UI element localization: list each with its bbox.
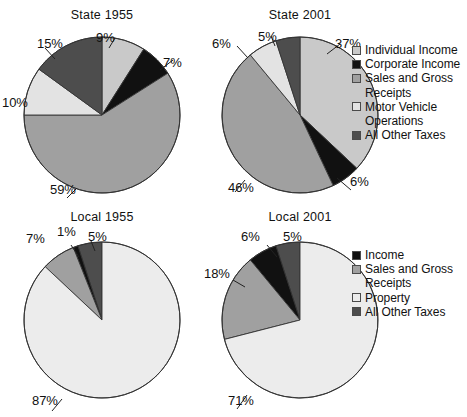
legend-item: All Other Taxes [352,305,464,319]
legend-swatch-icon [352,46,361,55]
legend-item-label: Corporate Income [365,57,460,71]
legend-swatch-icon [352,60,361,69]
local-legend: IncomeSales and Gross ReceiptsPropertyAl… [352,248,464,319]
legend-item-label: Sales and Gross Receipts [365,262,453,290]
legend-item-label: Individual Income [365,43,458,57]
legend-item: Income [352,248,464,262]
label-state-2001-sales: 46% [228,180,254,195]
legend-swatch-icon [352,307,361,316]
chart-title-local-2001: Local 2001 [220,210,380,224]
label-local-1955-sales: 7% [26,231,45,246]
label-state-1955-individual: 9% [96,30,115,45]
pie-local-1955 [17,235,187,405]
legend-item-label: All Other Taxes [365,128,445,142]
legend-swatch-icon [352,251,361,260]
legend-item-label: Income [365,248,404,262]
label-local-1955-property: 87% [32,393,58,408]
legend-item: Property [352,291,464,305]
label-local-2001-other: 5% [283,229,302,244]
label-local-2001-property: 71% [228,393,254,408]
label-state-2001-motor: 6% [212,36,231,51]
legend-swatch-icon [352,293,361,302]
label-state-1955-sales: 59% [50,182,76,197]
label-local-1955-income: 1% [57,224,76,239]
legend-item: All Other Taxes [352,128,464,142]
legend-swatch-icon [352,74,361,83]
pie-state-1955 [17,30,187,200]
legend-item-label: Property [365,291,410,305]
label-local-1955-other: 5% [88,229,107,244]
chart-title-local-1955: Local 1955 [22,210,182,224]
chart-title-state-1955: State 1955 [22,8,182,22]
legend-item: Individual Income [352,43,464,57]
label-state-1955-motor: 10% [2,95,28,110]
legend-item: Corporate Income [352,57,464,71]
label-state-1955-corporate: 7% [163,55,182,70]
legend-item: Motor Vehicle Operations [352,100,464,128]
label-local-2001-sales: 18% [204,266,230,281]
state-legend: Individual IncomeCorporate IncomeSales a… [352,43,464,142]
legend-swatch-icon [352,265,361,274]
legend-item-label: Motor Vehicle Operations [365,100,437,128]
legend-item: Sales and Gross Receipts [352,262,464,290]
label-state-1955-other: 15% [37,36,63,51]
legend-item-label: Sales and Gross Receipts [365,71,453,99]
figure-canvas: State 1955 9% 7% 59% 10% 15% State 2001 … [0,0,467,417]
label-state-2001-corporate: 6% [350,174,369,189]
legend-item: Sales and Gross Receipts [352,71,464,99]
legend-swatch-icon [352,102,361,111]
chart-title-state-2001: State 2001 [220,8,380,22]
legend-swatch-icon [352,131,361,140]
label-state-2001-other: 5% [258,29,277,44]
label-local-2001-income: 6% [241,229,260,244]
legend-item-label: All Other Taxes [365,305,445,319]
leader-line [237,46,248,58]
